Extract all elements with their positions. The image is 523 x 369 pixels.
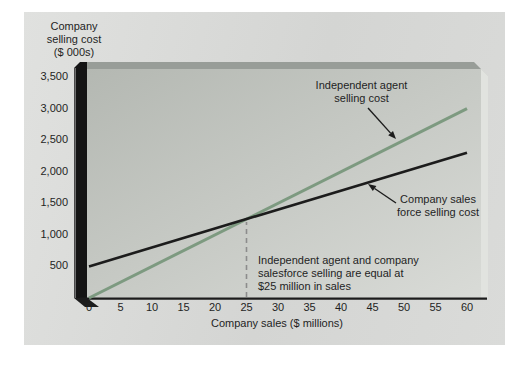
intersection-note: Independent agent and company salesforce… — [258, 254, 458, 293]
y-tick-label: 1,500 — [24, 196, 68, 209]
y-tick-label: 1,000 — [24, 228, 68, 241]
x-tick-label: 50 — [389, 301, 419, 314]
x-tick-label: 25 — [232, 301, 262, 314]
x-tick-label: 60 — [452, 301, 482, 314]
page: { "figure": { "y_axis_title": "Company\n… — [0, 0, 523, 369]
agent-line-label: Independent agent selling cost — [298, 79, 425, 105]
x-tick-label: 10 — [137, 301, 167, 314]
y-tick-label: 3,000 — [24, 102, 68, 115]
y-tick-label: 500 — [24, 259, 68, 272]
x-tick-label: 0 — [74, 301, 104, 314]
x-tick-label: 45 — [358, 301, 388, 314]
y-axis-title: Company selling cost ($ 000s) — [36, 20, 112, 59]
x-tick-label: 15 — [169, 301, 199, 314]
x-tick-label: 30 — [263, 301, 293, 314]
y-tick-label: 2,500 — [24, 133, 68, 146]
x-axis-title: Company sales ($ millions) — [182, 317, 372, 330]
x-tick-label: 35 — [295, 301, 325, 314]
x-tick-label: 20 — [200, 301, 230, 314]
salesforce-line-label: Company sales force selling cost — [387, 193, 489, 219]
x-tick-label: 55 — [421, 301, 451, 314]
x-tick-label: 40 — [326, 301, 356, 314]
figure-panel — [24, 12, 505, 345]
y-tick-label: 3,500 — [24, 70, 68, 83]
x-tick-label: 5 — [106, 301, 136, 314]
y-tick-label: 2,000 — [24, 165, 68, 178]
